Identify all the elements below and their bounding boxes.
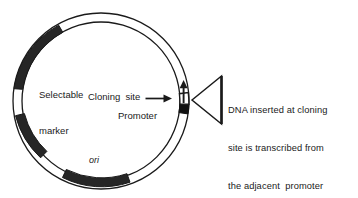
selectable-marker-label: Selectable marker [39,65,83,161]
plasmid-figure: Selectable marker Cloning site Promoter … [0,0,358,198]
selectable-marker-label-line1: Selectable [39,89,83,101]
callout-line-1: DNA inserted at cloning [228,104,327,117]
promoter-segment [179,104,189,114]
cloning-site-pointer-arrow-icon [146,94,173,102]
cloning-site-label: Cloning site [88,91,140,103]
callout-text: DNA inserted at cloning site is transcri… [228,79,327,198]
selectable-marker-label-line2: marker [39,125,83,137]
callout-line-3: the adjacent promoter [228,180,327,193]
ori-label: ori [89,155,99,167]
promoter-label: Promoter [118,110,157,122]
callout-line-2: site is transcribed from [228,142,327,155]
callout-wedge-icon [192,76,222,124]
